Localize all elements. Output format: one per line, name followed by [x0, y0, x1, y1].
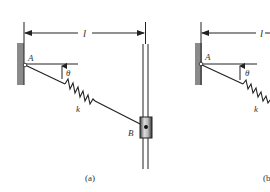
- link-arm: [202, 65, 243, 84]
- length-label: l: [83, 27, 86, 39]
- angle-label: θ: [245, 68, 250, 78]
- point-a-label: A: [204, 52, 211, 62]
- caption-b: (b: [263, 173, 270, 183]
- pin-a: [199, 62, 203, 66]
- angle-label: θ: [66, 68, 71, 78]
- length-label: l: [260, 27, 263, 39]
- mechanics-diagram: l θ k A B (a) l θ k A (b: [0, 0, 270, 192]
- link-arm: [25, 65, 65, 84]
- figure-a: l θ k A B (a): [17, 22, 152, 183]
- spring-label: k: [76, 104, 81, 114]
- caption-a: (a): [85, 173, 95, 183]
- figure-b: l θ k A (b: [195, 22, 270, 183]
- spring-label: k: [254, 104, 259, 114]
- spring-to-collar-line: [95, 101, 146, 127]
- spring: [243, 80, 270, 103]
- wall: [17, 43, 24, 85]
- point-a-label: A: [27, 53, 34, 63]
- pin-b: [144, 125, 148, 129]
- spring: [65, 79, 95, 104]
- pin-a: [23, 63, 27, 67]
- point-b-label: B: [128, 128, 134, 138]
